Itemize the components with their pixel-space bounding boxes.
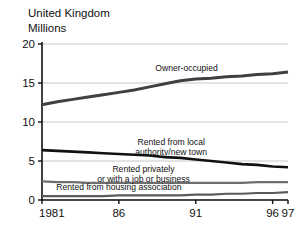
x-tick-label: 91 [189,207,202,219]
annotation-group: Owner-occupiedRented from localauthority… [56,63,218,192]
y-tick-label: 5 [29,155,35,167]
series-annotation-label: Rented from localauthority/new town [135,137,207,157]
series-annotation-label: Owner-occupied [155,63,218,73]
y-tick-label: 0 [29,194,35,206]
y-tick-label: 10 [22,116,35,128]
y-tick-label: 15 [22,77,35,89]
x-tick-label: 86 [112,207,125,219]
y-tick-group: 05101520 [22,38,42,206]
y-tick-label: 20 [22,38,35,50]
series-annotation-label: Rented from housing association [56,182,181,192]
x-tick-label: 96 [266,207,279,219]
x-tick-label: 97 [282,207,295,219]
series-line [42,192,288,196]
line-chart-plot: 05101520 198186919697 Owner-occupiedRent… [0,0,302,232]
x-tick-label: 1981 [39,207,65,219]
series-annotation-label: Rented privatelyor with a job or busines… [97,164,190,184]
chart-container: United Kingdom Millions 05101520 1981869… [0,0,302,232]
series-line [42,72,288,105]
x-tick-group: 198186919697 [39,200,294,219]
